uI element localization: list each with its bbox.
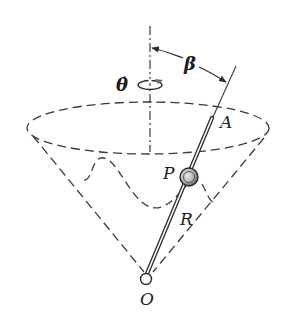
label-beta: β [183, 53, 196, 74]
cone-rod-diagram: θ̇ β A P R O [0, 0, 281, 324]
label-A: A [218, 112, 232, 132]
label-theta-dot: θ̇ [116, 74, 128, 95]
cone-left-side [33, 136, 144, 272]
beta-arrow-right [199, 67, 226, 82]
rod-OA [146, 118, 212, 276]
label-P: P [162, 163, 175, 183]
label-R: R [179, 209, 193, 229]
pivot-O [141, 274, 152, 285]
label-O: O [140, 289, 154, 309]
beta-arrow-left [152, 48, 183, 58]
cone-right-side [153, 138, 264, 272]
slider-sphere-P [180, 168, 198, 186]
cone-rim-ellipse [27, 102, 269, 154]
